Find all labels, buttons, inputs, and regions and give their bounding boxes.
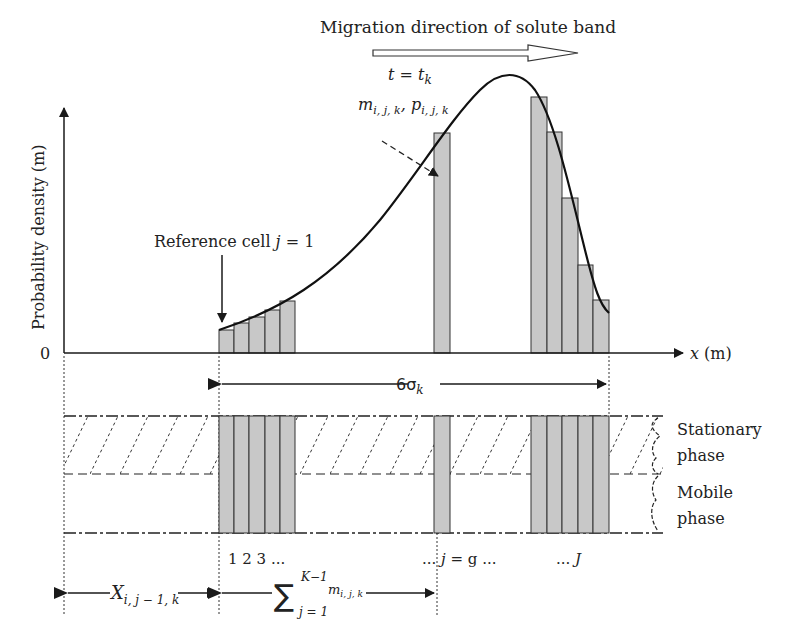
cell-label-g: ... j = g ... <box>422 550 497 568</box>
mobile-label-2: phase <box>677 509 725 528</box>
sum-term: mi, j, k <box>328 582 363 599</box>
time-label: t = tk <box>388 65 432 87</box>
width-label: 6σk <box>396 375 424 397</box>
title: Migration direction of solute band <box>320 17 616 37</box>
guide-lines <box>64 356 609 615</box>
offset-label: Xi, j − 1, k <box>109 582 179 607</box>
sum-upper: K−1 <box>300 570 328 584</box>
x-axis-label: x (m) <box>690 344 732 363</box>
cell-values-label: mi, j, k, pi, j, k <box>358 95 449 117</box>
stationary-label-2: phase <box>677 446 725 465</box>
cells-right <box>531 97 609 353</box>
cell-labels-first: 1 2 3 ... <box>228 550 285 568</box>
pointer-arrow <box>382 141 438 176</box>
mobile-label-1: Mobile <box>677 483 733 502</box>
mobile-brace <box>652 476 658 531</box>
origin-label: 0 <box>40 344 50 363</box>
diagram-canvas: Migration direction of solute band Proba… <box>0 0 788 635</box>
y-axis-label: Probability density (m) <box>29 144 48 330</box>
cell-g <box>434 133 450 353</box>
cell-label-J: ... J <box>556 550 582 568</box>
reference-cell-label: Reference cell j = 1 <box>154 232 314 251</box>
migration-arrow-icon <box>373 45 578 61</box>
solute-band-diagram: Migration direction of solute band Proba… <box>0 0 788 635</box>
sum-symbol: ∑ <box>274 578 294 613</box>
sum-lower: j = 1 <box>296 605 328 619</box>
stationary-label-1: Stationary <box>677 420 762 439</box>
